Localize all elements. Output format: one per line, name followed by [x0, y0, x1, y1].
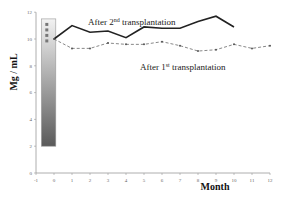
axes: 024681012-10123456789101112 [27, 10, 273, 183]
data-point [251, 47, 253, 49]
y-tick-label: 6 [30, 90, 33, 95]
annotation-2nd: After 2nd transplantation [88, 17, 176, 27]
y-tick-label: 10 [27, 37, 33, 42]
gradient-bar-rect [41, 19, 55, 146]
data-point [161, 41, 163, 43]
gradient-bar [41, 19, 55, 146]
x-tick-label: 6 [161, 178, 164, 183]
data-point [215, 49, 217, 51]
x-tick-label: 11 [250, 178, 255, 183]
data-point [71, 47, 73, 49]
x-tick-label: 1 [71, 178, 74, 183]
x-tick-label: -1 [34, 178, 39, 183]
y-tick-label: 2 [30, 144, 33, 149]
y-axis-title: Mg / mL [8, 53, 19, 91]
data-point [269, 45, 271, 47]
data-point [197, 50, 199, 52]
data-point [143, 43, 145, 45]
x-tick-label: 5 [143, 178, 146, 183]
x-tick-label: 2 [89, 178, 92, 183]
x-tick-label: 7 [179, 178, 182, 183]
data-point [125, 43, 127, 45]
marker-square [45, 28, 48, 31]
data-point [107, 42, 109, 44]
x-tick-label: 0 [53, 178, 56, 183]
data-point [53, 38, 55, 40]
y-tick-label: 0 [30, 171, 33, 176]
y-tick-label: 8 [30, 64, 33, 69]
data-point [233, 43, 235, 45]
x-tick-label: 8 [197, 178, 200, 183]
annotation-1st: After 1st transplantation [140, 62, 226, 72]
x-tick-label: 12 [268, 178, 274, 183]
marker-square [45, 23, 48, 26]
x-tick-label: 3 [107, 178, 110, 183]
marker-square [45, 39, 48, 42]
marker-square [45, 34, 48, 37]
x-axis-title: Month [201, 181, 230, 192]
annotations: After 2nd transplantationAfter 1st trans… [88, 17, 226, 72]
data-point [179, 45, 181, 47]
x-tick-label: 4 [125, 178, 128, 183]
y-tick-label: 12 [27, 10, 33, 15]
x-tick-label: 10 [232, 178, 238, 183]
line-chart: 024681012-10123456789101112 Mg / mL Mont… [0, 0, 285, 200]
data-point [89, 47, 91, 49]
y-tick-label: 4 [30, 117, 33, 122]
